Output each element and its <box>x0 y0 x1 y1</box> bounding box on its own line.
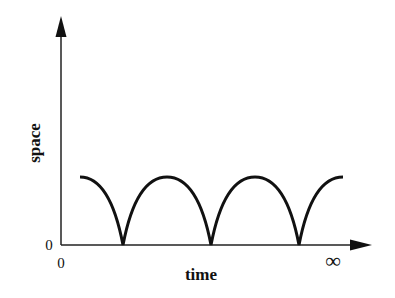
y-origin-tick: 0 <box>45 237 53 253</box>
x-axis-label: time <box>185 265 218 284</box>
y-axis-label: space <box>25 123 44 163</box>
x-origin-tick: 0 <box>57 255 65 271</box>
x-axis-arrow-icon <box>350 240 372 251</box>
space-time-diagram: space 0 0 time ∞ <box>0 0 395 298</box>
curve <box>80 177 343 245</box>
y-axis-arrow-icon <box>56 16 67 37</box>
x-end-tick-infinity: ∞ <box>325 248 341 273</box>
